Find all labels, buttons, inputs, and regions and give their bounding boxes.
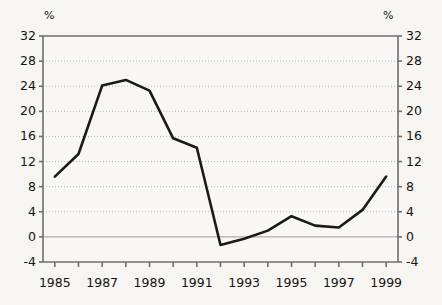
y-axis-tick-label-left: 24	[12, 78, 36, 93]
chart-container: % % 322824201612840-4 322824201612840-4 …	[0, 0, 442, 305]
y-axis-tick-label-right: 8	[406, 179, 432, 194]
x-axis-tick-label: 1995	[270, 275, 314, 290]
x-axis-tick-label: 1999	[364, 275, 408, 290]
y-axis-tick-label-left: 32	[12, 28, 36, 43]
y-axis-tick-label-right: 0	[406, 229, 432, 244]
y-axis-tick-label-left: 16	[12, 128, 36, 143]
x-axis-tick-label: 1985	[33, 275, 77, 290]
x-axis-tick-label: 1989	[128, 275, 172, 290]
y-axis-tick-label-left: 12	[12, 154, 36, 169]
y-axis-tick-label-right: -4	[406, 254, 432, 269]
y-axis-tick-label-left: 28	[12, 53, 36, 68]
y-axis-tick-label-right: 28	[406, 53, 432, 68]
y-axis-tick-label-left: 4	[12, 204, 36, 219]
y-axis-tick-label-right: 16	[406, 128, 432, 143]
y-axis-tick-label-left: 8	[12, 179, 36, 194]
y-axis-tick-label-right: 32	[406, 28, 432, 43]
x-axis-tick-label: 1993	[222, 275, 266, 290]
line-chart-plot	[0, 0, 442, 305]
y-axis-tick-label-right: 12	[406, 154, 432, 169]
y-axis-tick-label-left: 20	[12, 103, 36, 118]
y-axis-tick-label-right: 24	[406, 78, 432, 93]
x-axis-tick-label: 1991	[175, 275, 219, 290]
y-axis-tick-label-right: 4	[406, 204, 432, 219]
x-axis-tick-label: 1997	[317, 275, 361, 290]
y-axis-tick-label-left: 0	[12, 229, 36, 244]
y-axis-tick-label-right: 20	[406, 103, 432, 118]
x-axis-tick-label: 1987	[80, 275, 124, 290]
plot-background	[43, 36, 398, 262]
y-axis-tick-label-left: -4	[12, 254, 36, 269]
